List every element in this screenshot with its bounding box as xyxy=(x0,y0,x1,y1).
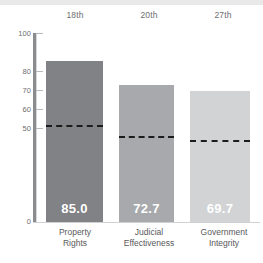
reference-line-government-integrity xyxy=(190,140,250,142)
y-tick-mark-100 xyxy=(36,33,43,34)
y-tick-label-70: 70 xyxy=(22,86,31,95)
y-tick-label-60: 60 xyxy=(22,105,31,114)
y-tick-label-80: 80 xyxy=(22,67,31,76)
x-axis-baseline xyxy=(33,222,260,223)
y-tick-mark-60 xyxy=(36,109,43,110)
bar-value-judicial-effectiveness: 72.7 xyxy=(119,201,174,216)
y-tick-label-50: 50 xyxy=(22,124,31,133)
bar-government-integrity[interactable]: 69.7 xyxy=(190,91,250,222)
category-label-property-rights: Property Rights xyxy=(38,227,112,249)
reference-line-property-rights xyxy=(46,125,103,127)
bar-property-rights[interactable]: 85.0 xyxy=(46,61,103,222)
category-label-government-integrity: Government Integrity xyxy=(186,227,262,249)
plot-area: 100 80 70 60 50 0 85.0 72.7 69.7 Propert… xyxy=(0,0,263,263)
y-tick-mark-50 xyxy=(36,128,43,129)
y-tick-label-0: 0 xyxy=(27,217,31,226)
bar-value-government-integrity: 69.7 xyxy=(190,201,250,216)
y-tick-label-100: 100 xyxy=(18,29,31,38)
reference-line-judicial-effectiveness xyxy=(119,136,174,138)
category-label-judicial-effectiveness: Judicial Effectiveness xyxy=(110,227,188,249)
bar-judicial-effectiveness[interactable]: 72.7 xyxy=(119,85,174,222)
chart-container: 18th 20th 27th 100 80 70 60 50 0 85.0 72… xyxy=(0,0,263,263)
y-tick-mark-70 xyxy=(36,90,43,91)
bar-value-property-rights: 85.0 xyxy=(46,201,103,216)
y-tick-mark-80 xyxy=(36,71,43,72)
